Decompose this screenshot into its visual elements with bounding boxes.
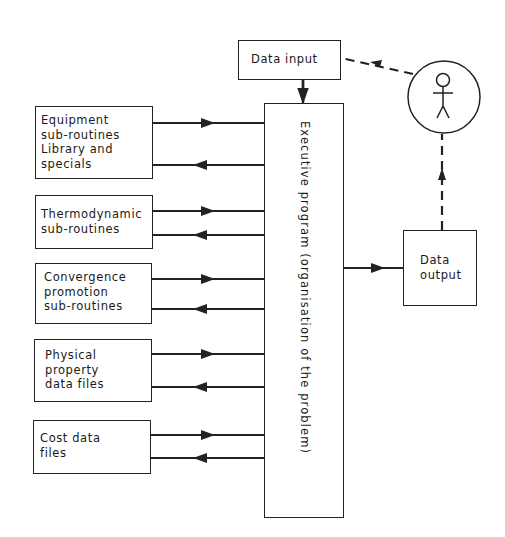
executive-program-label: Executive program (organisation of the p… xyxy=(298,121,312,454)
dashed-arrow-user-to-input xyxy=(341,58,413,74)
data-input-box: Data input xyxy=(238,40,341,80)
physical-property-label: Physical property data files xyxy=(45,348,104,392)
convergence-promotion-label: Convergence promotion sub-routines xyxy=(44,270,126,314)
data-output-box: Data output xyxy=(403,230,477,306)
executive-program-box: Executive program (organisation of the p… xyxy=(264,103,344,518)
cost-data-label: Cost data files xyxy=(40,431,101,460)
equipment-subroutines-box: Equipment sub-routines Library and speci… xyxy=(35,106,153,179)
thermodynamic-subroutines-box: Thermodynamic sub-routines xyxy=(35,195,153,249)
equipment-subroutines-label: Equipment sub-routines Library and speci… xyxy=(41,113,120,171)
data-input-label: Data input xyxy=(251,52,318,67)
cost-data-box: Cost data files xyxy=(33,420,151,474)
convergence-promotion-box: Convergence promotion sub-routines xyxy=(35,263,152,324)
arrowhead-icon xyxy=(438,168,446,180)
thermodynamic-subroutines-label: Thermodynamic sub-routines xyxy=(41,207,142,236)
physical-property-box: Physical property data files xyxy=(34,339,152,402)
user-actor-icon xyxy=(408,61,480,133)
data-output-label: Data output xyxy=(420,253,462,282)
